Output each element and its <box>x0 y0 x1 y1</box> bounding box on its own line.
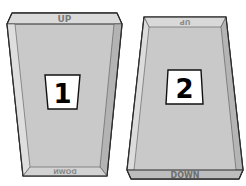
box-2-down-text: DOWN <box>171 171 200 180</box>
box-1-number: 1 <box>53 79 71 109</box>
box-2: UP DOWN 2 <box>127 17 243 180</box>
box-2-number: 2 <box>175 74 193 104</box>
figure: UP DOWN 1 UP DOWN 2 <box>0 0 246 186</box>
box-2-up-text: UP <box>180 18 191 26</box>
box-1-up-text: UP <box>58 14 72 24</box>
box-1-down-text: DOWN <box>53 168 77 176</box>
box-1: UP DOWN 1 <box>7 13 122 176</box>
